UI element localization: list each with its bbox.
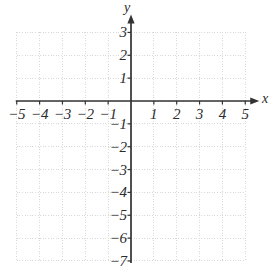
y-tick-label: −4 <box>109 185 127 200</box>
x-tick-label: 4 <box>219 107 227 122</box>
coordinate-plane-figure: −5−4−3−2−112345 321−1−2−3−4−5−6−7 x y <box>0 0 273 278</box>
y-tick-label: −5 <box>109 208 127 223</box>
y-tick-label: −6 <box>109 231 127 246</box>
y-tick-label: 1 <box>120 71 128 86</box>
y-tick-label: −2 <box>109 139 127 154</box>
y-tick-label: 2 <box>120 48 128 63</box>
y-axis-label: y <box>124 1 130 15</box>
x-tick-label: 3 <box>196 107 204 122</box>
y-tick-label: 3 <box>120 25 128 40</box>
x-tick-label: −2 <box>76 107 94 122</box>
y-tick-label: −3 <box>109 162 127 177</box>
x-tick-label: −5 <box>8 107 26 122</box>
x-tick-label: 2 <box>173 107 181 122</box>
x-tick-label: 5 <box>242 107 250 122</box>
x-tick-label: −3 <box>54 107 72 122</box>
y-tick-label: −7 <box>109 253 127 268</box>
coordinate-plane-canvas <box>0 0 273 278</box>
x-axis-label: x <box>262 92 268 106</box>
x-tick-label: −4 <box>31 107 49 122</box>
x-tick-label: 1 <box>150 107 158 122</box>
y-tick-label: −1 <box>109 116 127 131</box>
